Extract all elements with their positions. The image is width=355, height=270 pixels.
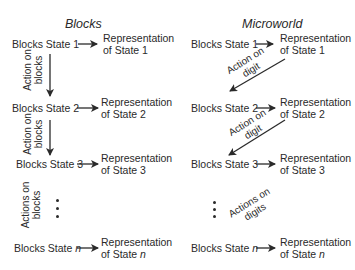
representation-1: Representationof State 1 [103,32,174,56]
action-label-1: Action onblocks [22,40,44,100]
mw-blocks-state-2: Blocks State 2 [191,102,258,114]
ellipsis-dot [56,207,59,210]
ellipsis-dot [213,215,216,218]
blocks-state-n: Blocks State n [14,242,81,254]
mw-representation-n: Representationof State n [280,236,351,260]
ellipsis-dot [56,199,59,202]
representation-2: Representationof State 2 [101,96,172,120]
ellipsis-dot [213,208,216,211]
mw-representation-1: Representationof State 1 [280,32,351,56]
action-label-3: Actions onblocks [20,174,42,236]
representation-3: Representationof State 3 [101,152,172,176]
mw-representation-2: Representationof State 2 [280,96,351,120]
mw-representation-3: Representationof State 3 [280,152,351,176]
ellipsis-dot [56,215,59,218]
mw-blocks-state-1: Blocks State 1 [191,38,258,50]
mw-blocks-state-n: Blocks State n [191,242,258,254]
action-label-2: Action onblocks [22,104,44,164]
blocks-title: Blocks [65,18,102,30]
ellipsis-dot [213,201,216,204]
representation-n: Representationof State n [101,236,172,260]
mw-blocks-state-3: Blocks State 3 [191,158,258,170]
microworld-title: Microworld [242,18,302,30]
